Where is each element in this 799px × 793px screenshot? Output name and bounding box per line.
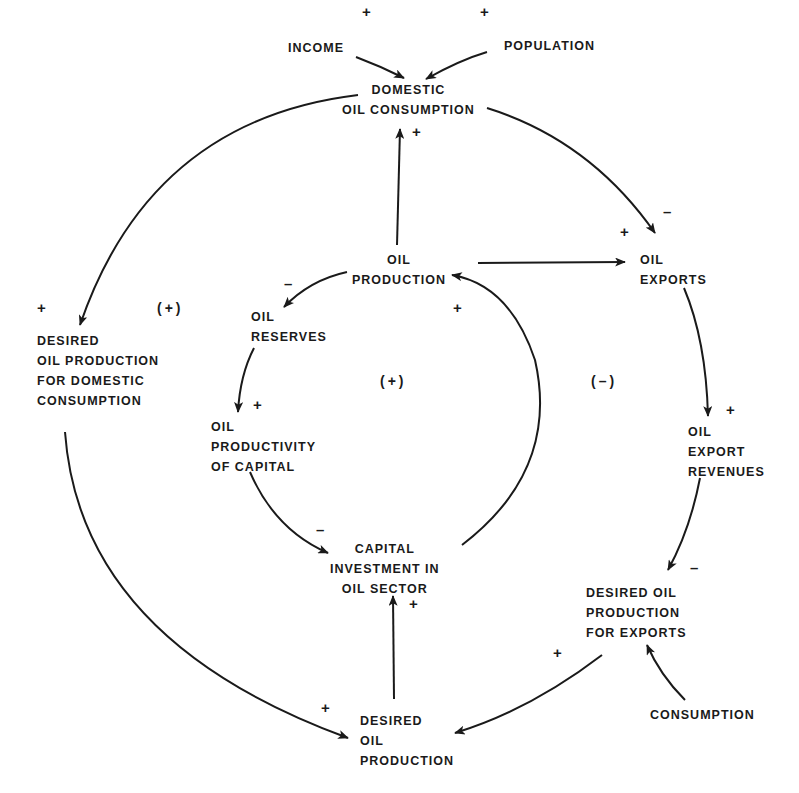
node-oil-export-revenues: OIL EXPORT REVENUES xyxy=(688,422,765,482)
sign-domestic-to-desired-domestic: + xyxy=(37,300,46,315)
sign-exports-to-revenues: + xyxy=(726,402,735,417)
sign-desired-domestic-to-desired: + xyxy=(321,700,330,715)
arrow-revenues-to-desired-exports xyxy=(668,478,700,570)
node-oil-exports: OIL EXPORTS xyxy=(640,250,707,290)
sign-income: + xyxy=(362,4,371,19)
arrow-production-to-reserves xyxy=(284,272,347,307)
arrow-income-to-domestic xyxy=(356,57,404,78)
node-population: POPULATION xyxy=(504,36,595,56)
sign-domestic-to-exports: – xyxy=(663,204,671,219)
sign-population: + xyxy=(480,4,489,19)
sign-production-to-domestic: + xyxy=(412,124,421,139)
node-oil-reserves: OIL RESERVES xyxy=(251,307,327,347)
loop-center-reinforcing: (+) xyxy=(380,373,407,389)
node-desired-oil-production-for-exports: DESIRED OIL PRODUCTION FOR EXPORTS xyxy=(586,583,687,643)
node-desired-oil-production-domestic: DESIRED OIL PRODUCTION FOR DOMESTIC CONS… xyxy=(37,331,159,411)
sign-desired-exports-to-desired: + xyxy=(553,645,562,660)
sign-reserves-to-productivity: + xyxy=(253,397,262,412)
node-domestic-oil-consumption: DOMESTIC OIL CONSUMPTION xyxy=(342,80,475,120)
arrow-domestic-to-exports xyxy=(487,108,655,233)
arrow-production-to-domestic xyxy=(397,129,400,245)
causal-loop-diagram: INCOME POPULATION DOMESTIC OIL CONSUMPTI… xyxy=(0,0,799,793)
arrow-population-to-domestic xyxy=(426,52,487,79)
arrow-exports-to-revenues xyxy=(684,288,708,416)
sign-production-to-exports: + xyxy=(620,224,629,239)
arrow-capital-to-production xyxy=(452,275,540,545)
loop-right-balancing: (–) xyxy=(591,373,617,389)
node-oil-production: OIL PRODUCTION xyxy=(352,250,446,290)
arrow-desired-to-capital xyxy=(393,596,394,699)
node-consumption: CONSUMPTION xyxy=(650,705,755,725)
sign-desired-to-capital: + xyxy=(409,596,418,611)
arrow-desired-domestic-to-desired xyxy=(65,432,348,738)
sign-capital-to-production: + xyxy=(453,300,462,315)
arrow-consumption-to-desired-exports xyxy=(647,645,685,700)
node-desired-oil-production: DESIRED OIL PRODUCTION xyxy=(360,711,454,771)
sign-revenues-to-desired-exports: – xyxy=(690,560,698,575)
node-income: INCOME xyxy=(288,38,344,58)
node-capital-investment-in-oil-sector: CAPITAL INVESTMENT IN OIL SECTOR xyxy=(330,539,440,599)
sign-production-to-reserves: – xyxy=(284,276,292,291)
arrow-productivity-to-capital xyxy=(250,472,328,553)
node-oil-productivity-of-capital: OIL PRODUCTIVITY OF CAPITAL xyxy=(211,417,316,477)
arrow-reserves-to-productivity xyxy=(238,348,254,412)
loop-left-reinforcing: (+) xyxy=(157,300,184,316)
sign-productivity-to-capital: – xyxy=(316,522,324,537)
arrow-production-to-exports xyxy=(478,262,625,263)
arrow-desired-exports-to-desired xyxy=(455,655,602,733)
arrow-domestic-to-desired-domestic xyxy=(80,95,358,325)
